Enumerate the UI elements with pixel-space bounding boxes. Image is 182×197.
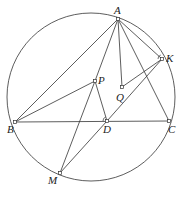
segment-BP bbox=[15, 81, 95, 122]
circumcircle bbox=[7, 13, 175, 181]
point-B bbox=[13, 120, 16, 123]
label-C: C bbox=[168, 123, 176, 135]
segment-PD bbox=[95, 81, 107, 121]
label-D: D bbox=[102, 123, 111, 135]
point-P bbox=[93, 79, 96, 82]
segment-PM bbox=[60, 81, 95, 173]
point-A bbox=[116, 17, 119, 20]
label-B: B bbox=[7, 123, 14, 135]
point-Q bbox=[120, 85, 123, 88]
segment-QK bbox=[122, 59, 162, 87]
point-K bbox=[160, 57, 163, 60]
segment-AK bbox=[118, 19, 162, 59]
label-K: K bbox=[165, 52, 174, 64]
segment-AC bbox=[118, 19, 169, 121]
segments bbox=[15, 19, 169, 173]
label-M: M bbox=[47, 174, 58, 186]
point-M bbox=[58, 171, 61, 174]
segment-AQ bbox=[118, 19, 122, 87]
label-A: A bbox=[113, 4, 121, 16]
segment-MD bbox=[60, 121, 107, 173]
geometry-diagram: AKPQBDCM bbox=[0, 0, 182, 197]
points bbox=[13, 17, 170, 174]
label-Q: Q bbox=[116, 91, 124, 103]
segment-BC bbox=[15, 121, 169, 122]
label-P: P bbox=[97, 74, 105, 86]
segment-AP bbox=[95, 19, 118, 81]
point-labels: AKPQBDCM bbox=[7, 4, 176, 186]
